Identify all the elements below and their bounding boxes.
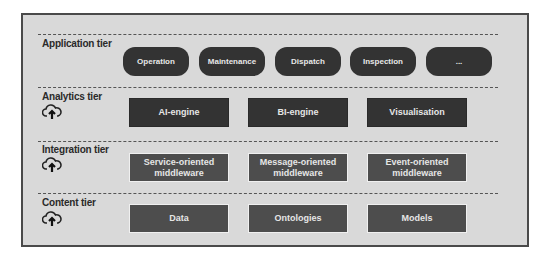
integration-tier-label: Integration tier bbox=[42, 144, 109, 155]
tier-separator bbox=[38, 141, 498, 142]
tier-separator bbox=[38, 34, 498, 35]
tier-separator bbox=[38, 193, 498, 194]
app-maintenance: Maintenance bbox=[199, 47, 265, 76]
tier-separator bbox=[38, 87, 498, 88]
app-more: ... bbox=[426, 47, 492, 76]
content-models: Models bbox=[367, 204, 467, 233]
app-inspection: Inspection bbox=[350, 47, 416, 76]
cloud-upload-icon bbox=[42, 104, 62, 120]
analytics-tier-label: Analytics tier bbox=[42, 91, 102, 102]
app-operation: Operation bbox=[123, 47, 189, 76]
application-tier-label: Application tier bbox=[42, 38, 112, 49]
integration-service-oriented-middleware: Service-oriented middleware bbox=[129, 153, 229, 182]
content-ontologies: Ontologies bbox=[248, 204, 348, 233]
content-data: Data bbox=[129, 204, 229, 233]
analytics-visualisation: Visualisation bbox=[367, 98, 467, 127]
analytics-ai-engine: AI-engine bbox=[129, 98, 229, 127]
app-dispatch: Dispatch bbox=[275, 47, 341, 76]
content-tier-label: Content tier bbox=[42, 197, 96, 208]
integration-message-oriented-middleware: Message-oriented middleware bbox=[248, 153, 348, 182]
integration-event-oriented-middleware: Event-oriented middleware bbox=[367, 153, 467, 182]
cloud-upload-icon bbox=[42, 157, 62, 173]
cloud-upload-icon bbox=[42, 211, 62, 227]
analytics-bi-engine: BI-engine bbox=[248, 98, 348, 127]
